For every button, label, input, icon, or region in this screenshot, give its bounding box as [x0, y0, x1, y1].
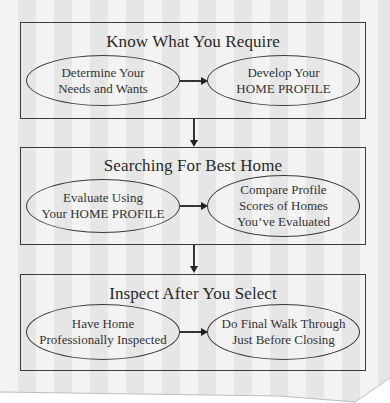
stage-title: Searching For Best Home: [21, 156, 365, 176]
step-text: Scores of Homes: [239, 198, 328, 214]
step-compare-profile-scores: Compare Profile Scores of Homes You’ve E…: [207, 175, 360, 237]
step-text: Professionally Inspected: [39, 332, 166, 348]
step-determine-needs: Determine Your Needs and Wants: [26, 55, 180, 106]
step-text: Just Before Closing: [232, 332, 335, 348]
step-text: Evaluate Using: [63, 190, 143, 206]
step-final-walk-through: Do Final Walk Through Just Before Closin…: [207, 304, 360, 360]
step-text: Your HOME PROFILE: [42, 206, 165, 222]
connector-line: [193, 119, 195, 141]
step-text: Develop Your: [247, 65, 319, 81]
step-text: Compare Profile: [240, 182, 326, 198]
connector-line: [180, 205, 202, 207]
step-text: Do Final Walk Through: [222, 316, 346, 332]
step-text: HOME PROFILE: [236, 81, 330, 97]
step-text: Needs and Wants: [58, 81, 148, 97]
step-text: Have Home: [72, 316, 134, 332]
step-professional-inspection: Have Home Professionally Inspected: [26, 304, 180, 360]
arrow-down-icon: [190, 266, 198, 273]
arrow-down-icon: [190, 140, 198, 147]
step-text: Determine Your: [61, 65, 144, 81]
connector-line: [180, 80, 202, 82]
connector-line: [193, 245, 195, 267]
step-develop-home-profile: Develop Your HOME PROFILE: [207, 55, 360, 106]
stage-title: Know What You Require: [21, 32, 365, 52]
step-evaluate-using-profile: Evaluate Using Your HOME PROFILE: [26, 179, 180, 233]
step-text: You’ve Evaluated: [237, 214, 330, 230]
stage-title: Inspect After You Select: [21, 284, 365, 304]
connector-line: [180, 331, 202, 333]
